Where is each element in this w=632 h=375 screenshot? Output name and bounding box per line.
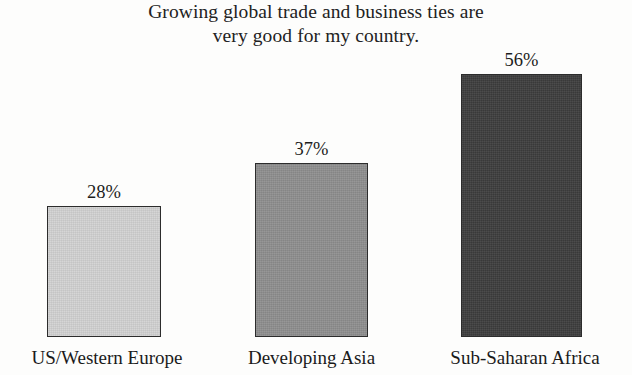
category-label-developing-asia: Developing Asia [224,347,399,369]
bar-value-label: 56% [461,50,582,70]
bar-value-label: 37% [255,139,368,159]
bar-chart-figure: Growing global trade and business ties a… [0,0,632,375]
bar-value-label: 28% [47,182,161,202]
bar-sub-saharan-africa [461,74,582,337]
bar-us-western-europe [47,206,161,337]
plot-area: 28% US/Western Europe 37% Developing Asi… [0,0,632,375]
category-label-us-western-europe: US/Western Europe [0,347,222,369]
category-label-sub-saharan-africa: Sub-Saharan Africa [418,347,632,369]
bar-developing-asia [255,163,368,337]
